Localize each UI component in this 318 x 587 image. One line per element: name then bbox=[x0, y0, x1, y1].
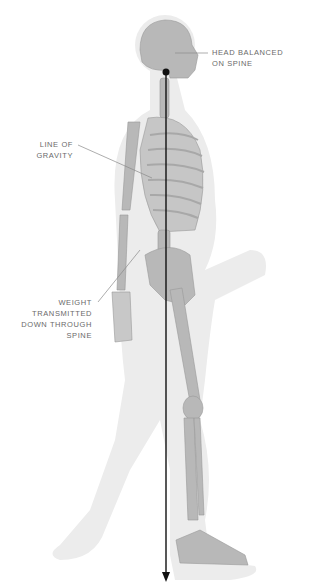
label-head-balanced: HEAD BALANCED ON SPINE bbox=[212, 47, 283, 69]
label-weight-transmitted: WEIGHT TRANSMITTED DOWN THROUGH SPINE bbox=[0, 297, 92, 341]
skeleton-figure bbox=[0, 0, 318, 587]
foot bbox=[176, 530, 248, 565]
hand bbox=[112, 292, 132, 342]
label-line-of-gravity: LINE OF GRAVITY bbox=[30, 139, 73, 161]
